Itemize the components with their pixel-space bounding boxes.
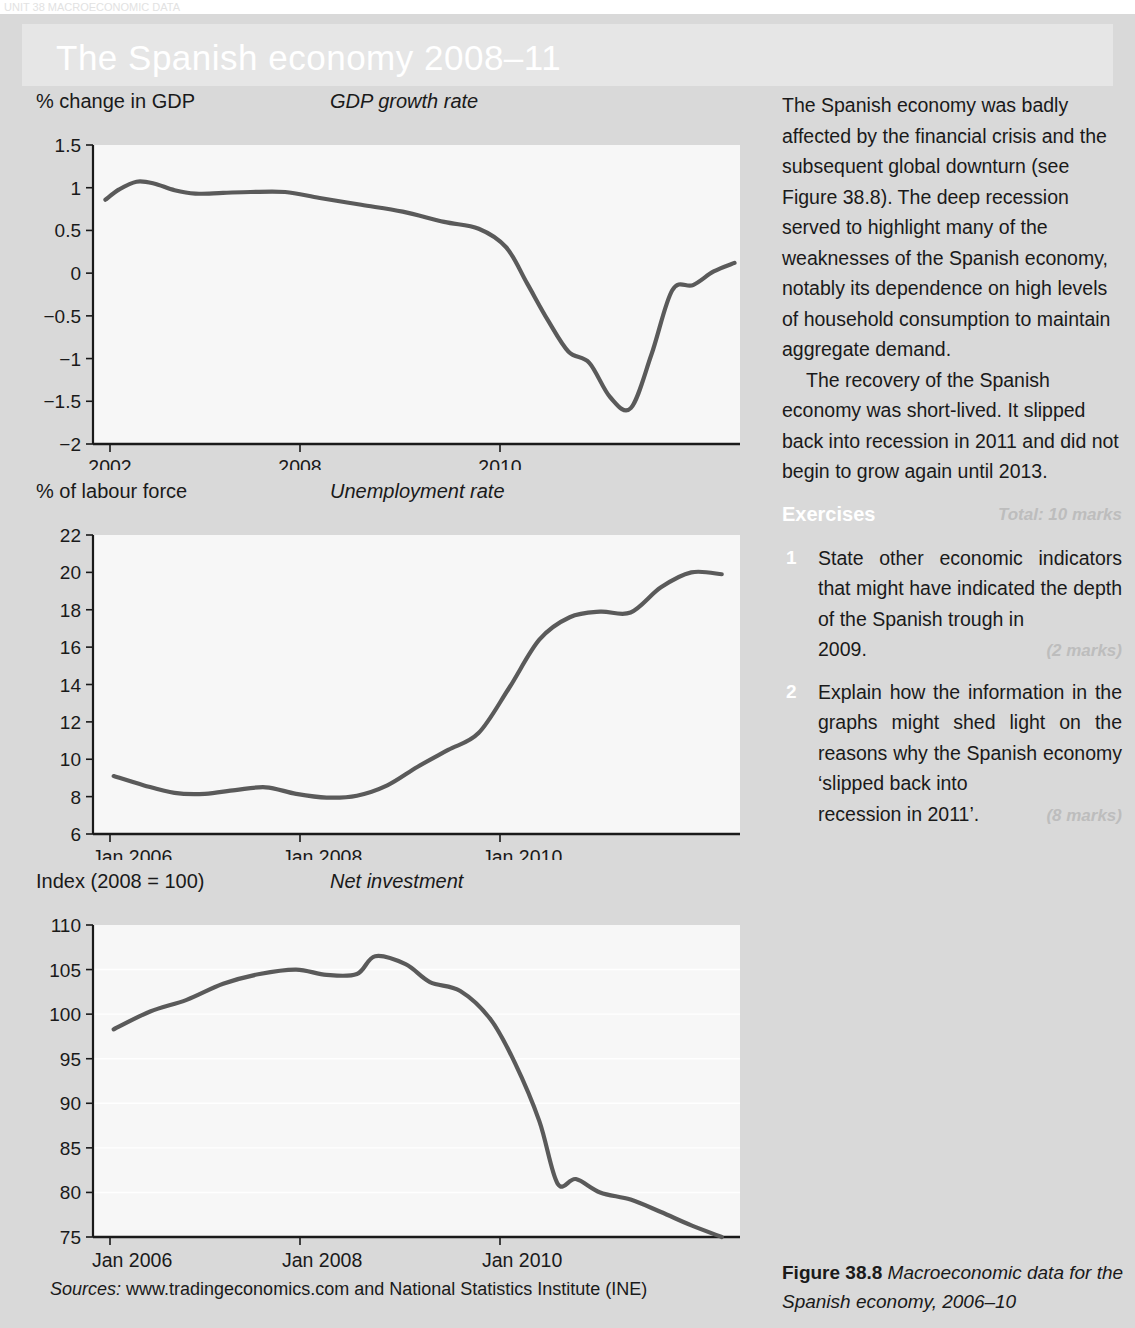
svg-text:18: 18: [60, 600, 81, 621]
svg-text:2008: 2008: [278, 456, 321, 470]
body-paragraph-1: The Spanish economy was badly affected b…: [782, 90, 1122, 365]
chart2-axis-label: % of labour force: [36, 480, 187, 503]
exercise-text: State other economic indicators that mig…: [818, 543, 1122, 635]
exercise-number: 2: [786, 677, 797, 708]
svg-text:0.5: 0.5: [55, 220, 81, 241]
svg-text:100: 100: [49, 1004, 81, 1025]
exercises-header: Exercises Total: 10 marks: [782, 503, 1122, 533]
sources-text: www.tradingeconomics.com and National St…: [121, 1279, 647, 1299]
chart1-plot: 1.510.50−0.5−1−1.5−2 200220082010: [0, 112, 780, 470]
svg-text:85: 85: [60, 1138, 81, 1159]
svg-text:2010: 2010: [478, 456, 522, 470]
svg-text:110: 110: [51, 915, 81, 936]
svg-text:2002: 2002: [88, 456, 131, 470]
chart2-plot: 2220181614121086 Jan 2006Jan 2008Jan 201…: [0, 502, 780, 860]
svg-text:Jan 2006: Jan 2006: [92, 1249, 172, 1267]
exercise-marks: (2 marks): [1046, 636, 1122, 667]
svg-text:−2: −2: [59, 434, 81, 455]
charts-column: % change in GDP GDP growth rate 1.510.50…: [0, 14, 780, 1328]
svg-text:22: 22: [60, 525, 81, 546]
exercises-section: Exercises Total: 10 marks 1 State other …: [782, 503, 1122, 832]
svg-text:6: 6: [70, 824, 81, 845]
exercise-last-line: recession in 2011’.: [818, 799, 979, 830]
svg-text:−0.5: −0.5: [43, 306, 81, 327]
sources-label: Sources:: [50, 1279, 121, 1299]
svg-text:1: 1: [70, 178, 81, 199]
svg-text:Jan 2010: Jan 2010: [482, 846, 562, 860]
figure-caption: Figure 38.8 Macroeconomic data for the S…: [782, 1258, 1127, 1316]
svg-text:Jan 2008: Jan 2008: [282, 846, 362, 860]
exercise-text: Explain how the information in the graph…: [818, 677, 1122, 799]
body-paragraph-2: The recovery of the Spanish economy was …: [782, 365, 1122, 487]
exercise-last-line: 2009.: [818, 634, 867, 665]
exercises-total-marks: Total: 10 marks: [998, 505, 1122, 525]
chart-gdp-growth-rate: % change in GDP GDP growth rate 1.510.50…: [0, 90, 780, 470]
svg-text:0: 0: [70, 263, 81, 284]
svg-text:14: 14: [60, 675, 82, 696]
chart2-title: Unemployment rate: [330, 480, 505, 503]
page-header-strip: UNIT 38 MACROECONOMIC DATA: [0, 0, 1135, 14]
svg-text:90: 90: [60, 1093, 81, 1114]
svg-text:105: 105: [49, 960, 81, 981]
svg-text:1.5: 1.5: [55, 135, 81, 156]
exercises-heading: Exercises: [782, 503, 875, 526]
page-panel: The Spanish economy 2008–11 % change in …: [0, 14, 1135, 1328]
exercise-number: 1: [786, 543, 797, 574]
sources-line: Sources: www.tradingeconomics.com and Na…: [50, 1279, 647, 1300]
svg-text:95: 95: [60, 1049, 81, 1070]
svg-text:12: 12: [60, 712, 81, 733]
figure-caption-label: Figure 38.8: [782, 1262, 882, 1283]
svg-text:Jan 2010: Jan 2010: [482, 1249, 562, 1267]
svg-text:−1.5: −1.5: [43, 391, 81, 412]
svg-text:80: 80: [60, 1182, 81, 1203]
chart1-axis-label: % change in GDP: [36, 90, 195, 113]
chart3-title: Net investment: [330, 870, 463, 893]
svg-text:10: 10: [60, 749, 81, 770]
body-text: The Spanish economy was badly affected b…: [782, 90, 1122, 487]
svg-text:16: 16: [60, 637, 81, 658]
exercise-last-line-row: 2009. (2 marks): [818, 634, 1122, 667]
exercise-item: 2 Explain how the information in the gra…: [782, 677, 1122, 832]
chart3-axis-label: Index (2008 = 100): [36, 870, 204, 893]
svg-text:Jan 2006: Jan 2006: [92, 846, 172, 860]
exercise-last-line-row: recession in 2011’. (8 marks): [818, 799, 1122, 832]
chart-unemployment-rate: % of labour force Unemployment rate 2220…: [0, 480, 780, 860]
chart-net-investment: Index (2008 = 100) Net investment 110105…: [0, 870, 780, 1270]
right-column: The Spanish economy was badly affected b…: [782, 90, 1122, 831]
chart1-title: GDP growth rate: [330, 90, 478, 113]
chart3-plot: 1101051009590858075 Jan 2006Jan 2008Jan …: [0, 892, 780, 1267]
svg-text:8: 8: [70, 787, 81, 808]
svg-text:−1: −1: [59, 349, 81, 370]
svg-text:75: 75: [60, 1227, 81, 1248]
exercise-item: 1 State other economic indicators that m…: [782, 543, 1122, 667]
svg-text:20: 20: [60, 562, 81, 583]
exercise-marks: (8 marks): [1046, 801, 1122, 832]
svg-text:Jan 2008: Jan 2008: [282, 1249, 362, 1267]
